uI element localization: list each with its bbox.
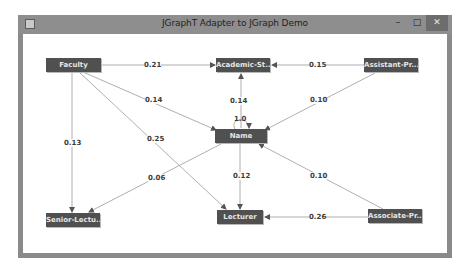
edge-label-faculty-lecturer: 0.25 [147, 135, 164, 143]
edge-label-name-senior: 0.06 [148, 174, 165, 182]
window-title: JGraphT Adapter to JGraph Demo [18, 18, 452, 28]
edge-label-faculty-senior: 0.13 [64, 139, 81, 147]
edge-label-faculty-name: 0.14 [145, 96, 162, 104]
node-lecturer[interactable]: Lecturer [217, 210, 263, 224]
node-senior-lecturer[interactable]: Senior-Lectu... [46, 213, 100, 227]
node-associate-professor[interactable]: Associate-Pr... [368, 209, 422, 223]
edge-label-faculty-academic: 0.21 [144, 61, 161, 69]
edge-label-associate-lecturer: 0.26 [309, 213, 326, 221]
maximize-button[interactable]: □ [410, 15, 424, 31]
close-button[interactable]: ✕ [426, 15, 448, 31]
edge-label-assistant-name: 0.10 [310, 96, 327, 104]
minimize-button[interactable]: – [391, 15, 405, 31]
node-name[interactable]: Name [215, 129, 267, 143]
node-faculty[interactable]: Faculty [46, 58, 101, 72]
graph-canvas[interactable]: 0.21 0.15 0.14 0.14 1.0 0.10 0.13 0.25 0… [23, 34, 447, 253]
edge-label-assistant-academic: 0.15 [309, 61, 326, 69]
edge-label-associate-name: 0.10 [310, 172, 327, 180]
node-academic-staff[interactable]: Academic-St... [216, 58, 270, 72]
edge-label-name-self: 1.0 [234, 115, 246, 123]
app-window: JGraphT Adapter to JGraph Demo – □ ✕ [18, 15, 452, 258]
title-bar[interactable]: JGraphT Adapter to JGraph Demo – □ ✕ [18, 15, 452, 34]
node-assistant-professor[interactable]: Assistant-Pr... [364, 58, 418, 72]
edge-label-name-lecturer: 0.12 [233, 172, 250, 180]
edge-label-name-academic: 0.14 [230, 97, 247, 105]
